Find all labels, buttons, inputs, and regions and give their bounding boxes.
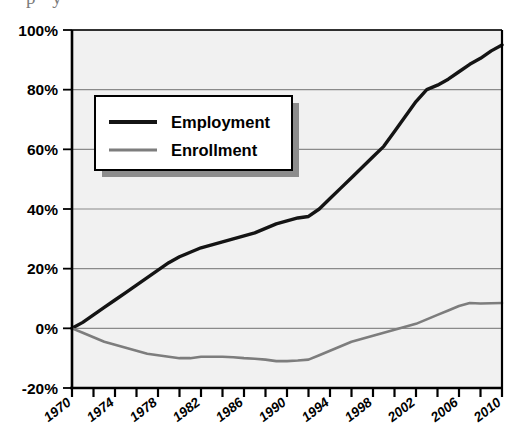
x-tick-label: 1982 (170, 394, 203, 425)
y-tick-label: 60% (27, 141, 58, 158)
cropped-title-fragment: p y (26, 0, 68, 9)
y-tick-label: 20% (27, 260, 58, 277)
x-tick-label: 2006 (427, 394, 461, 425)
y-tick-labels: 100%80%60%40%20%0%-20% (18, 22, 58, 397)
x-tick-label: 1990 (256, 394, 289, 425)
x-tick-label: 1970 (41, 394, 74, 425)
x-tick-label: 1986 (213, 394, 246, 425)
line-chart-figure: p y 100%80%60%40%20%0%-20% 1970197419781… (0, 0, 526, 440)
x-tick-label: 1998 (342, 394, 375, 425)
x-tick-label: 1978 (127, 394, 160, 425)
x-axis (70, 388, 502, 397)
y-tick-label: -20% (22, 380, 58, 397)
x-tick-label: 2002 (384, 394, 418, 425)
chart-canvas: 100%80%60%40%20%0%-20% 19701974197819821… (0, 0, 526, 440)
x-tick-labels: 1970197419781982198619901994199820022006… (41, 394, 504, 425)
x-tick-label: 1994 (299, 394, 332, 425)
y-tick-label: 0% (36, 320, 59, 337)
y-tick-label: 100% (18, 22, 58, 39)
y-tick-label: 40% (27, 201, 58, 218)
y-tick-label: 80% (27, 81, 58, 98)
legend-label-employment: Employment (171, 113, 271, 131)
x-tick-label: 1974 (84, 394, 117, 425)
chart-legend: EmploymentEnrollment (95, 96, 299, 177)
x-tick-label: 2010 (470, 394, 504, 425)
legend-label-enrollment: Enrollment (171, 141, 258, 159)
